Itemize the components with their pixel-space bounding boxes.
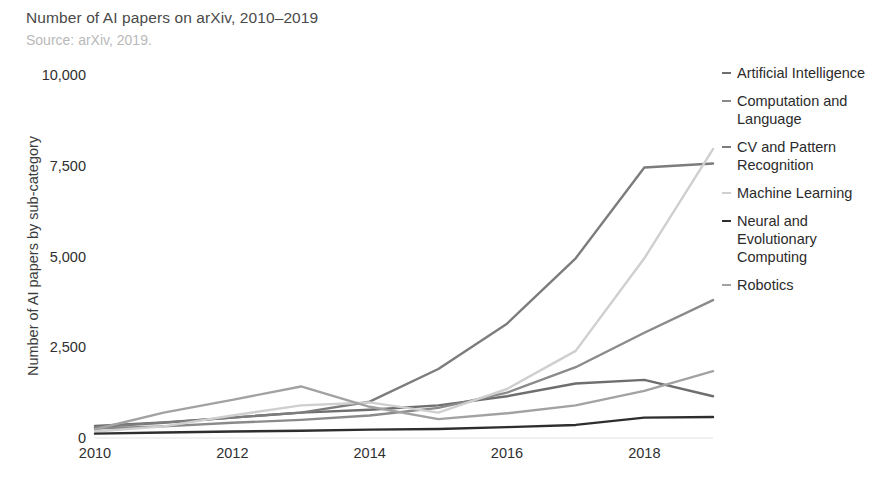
legend-item-label: CV and Pattern Recognition — [737, 138, 890, 174]
y-axis-tick-label: 0 — [78, 430, 86, 446]
y-axis-tick-label: 10,000 — [42, 67, 86, 83]
legend-item[interactable]: Robotics — [722, 276, 890, 294]
line-series-group — [95, 75, 713, 438]
legend-dash-icon — [722, 72, 731, 74]
x-axis-tick-label: 2012 — [216, 445, 248, 461]
x-axis-tick-label: 2014 — [354, 445, 386, 461]
legend-item[interactable]: Artificial Intelligence — [722, 64, 890, 82]
legend-item[interactable]: CV and Pattern Recognition — [722, 138, 890, 174]
chart-legend: Artificial IntelligenceComputation and L… — [722, 64, 890, 304]
legend-item[interactable]: Machine Learning — [722, 184, 890, 202]
legend-dash-icon — [722, 284, 731, 286]
legend-dash-icon — [722, 220, 731, 222]
legend-item-label: Computation and Language — [737, 92, 890, 128]
legend-item-label: Neural and Evolutionary Computing — [737, 212, 890, 266]
legend-dash-icon — [722, 192, 731, 194]
x-axis-tick-label: 2016 — [491, 445, 523, 461]
legend-item-label: Robotics — [737, 276, 793, 294]
x-axis-tick-label: 2010 — [79, 445, 111, 461]
chart-source-subtitle: Source: arXiv, 2019. — [26, 32, 152, 48]
y-axis-tick-label: 2,500 — [50, 339, 86, 355]
series-line — [95, 149, 713, 431]
chart-page: Number of AI papers on arXiv, 2010–2019 … — [0, 0, 896, 493]
y-axis-label: Number of AI papers by sub-category — [25, 91, 41, 421]
page-title: Number of AI papers on arXiv, 2010–2019 — [26, 9, 318, 27]
plot-area: 02,5005,0007,50010,000 20102012201420162… — [95, 75, 713, 438]
legend-item[interactable]: Neural and Evolutionary Computing — [722, 212, 890, 266]
legend-item-label: Machine Learning — [737, 184, 852, 202]
y-axis-tick-label: 5,000 — [50, 249, 86, 265]
legend-dash-icon — [722, 146, 731, 148]
legend-item[interactable]: Computation and Language — [722, 92, 890, 128]
legend-dash-icon — [722, 100, 731, 102]
y-axis-tick-label: 7,500 — [50, 158, 86, 174]
x-axis-tick-label: 2018 — [628, 445, 660, 461]
series-line — [95, 164, 713, 428]
legend-item-label: Artificial Intelligence — [737, 64, 865, 82]
